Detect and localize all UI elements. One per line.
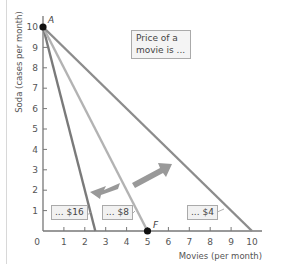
arrow-outward-icon: [132, 163, 172, 188]
x-tick-9: 9: [228, 237, 234, 247]
x-tick-4: 4: [124, 237, 130, 247]
x-tick-6: 6: [166, 237, 172, 247]
y-tick-6: 6: [32, 104, 38, 114]
x-tick-0: 0: [34, 237, 40, 247]
y-tick-8: 8: [32, 63, 38, 73]
y-tick-3: 3: [32, 165, 38, 175]
y-tick-4: 4: [32, 145, 38, 155]
legend-title-line2: movie is ...: [136, 44, 186, 56]
arrow-inward-icon: [90, 183, 120, 199]
price-label-16: ... $16: [51, 205, 88, 220]
x-tick-2: 2: [82, 237, 88, 247]
x-tick-1: 1: [61, 237, 67, 247]
legend-title-line1: Price of a: [136, 32, 186, 44]
y-tick-5: 5: [32, 124, 38, 134]
y-tick-1: 1: [32, 206, 38, 216]
y-axis-title: Soda (cases per month): [14, 11, 24, 113]
point-f-label: F: [153, 220, 159, 230]
budget-line-16: [43, 27, 95, 231]
point-f-marker: [144, 227, 151, 234]
x-tick-3: 3: [103, 237, 109, 247]
price-label-4: ... $4: [187, 205, 218, 220]
point-a-label: A: [47, 15, 54, 25]
x-tick-7: 7: [186, 237, 192, 247]
x-tick-8: 8: [207, 237, 213, 247]
y-tick-2: 2: [32, 185, 38, 195]
y-tick-10: 10: [27, 22, 39, 32]
y-tick-9: 9: [32, 43, 38, 53]
point-a-marker: [39, 23, 46, 30]
y-tick-7: 7: [32, 83, 38, 93]
legend-title-box: Price of a movie is ...: [131, 30, 191, 59]
price-label-8: ... $8: [102, 205, 133, 220]
x-tick-5: 5: [145, 237, 151, 247]
x-axis-title: Movies (per month): [179, 251, 262, 261]
x-tick-10: 10: [246, 237, 258, 247]
